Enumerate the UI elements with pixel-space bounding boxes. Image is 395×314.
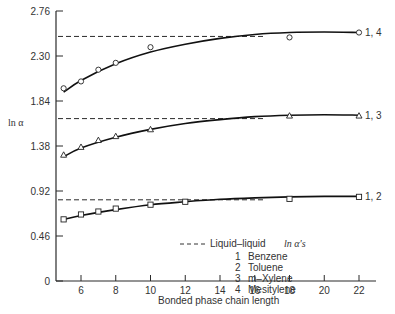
- y-tick-label: 0: [44, 276, 50, 287]
- legend-num-1: 1: [235, 251, 241, 262]
- chart: 00.460.921.381.842.302.76681012141618202…: [0, 0, 395, 314]
- legend-label-toluene: Toluene: [248, 262, 283, 273]
- data-markers: [61, 30, 362, 222]
- y-tick-label: 2.30: [31, 51, 51, 62]
- y-tick-label: 0.92: [31, 186, 51, 197]
- legend: Liquid–liquid ln α's 1 Benzene 2 Toluene…: [180, 238, 306, 295]
- legend-dash-label: Liquid–liquid: [210, 238, 266, 249]
- circle-marker: [78, 79, 83, 84]
- series-labels: 1, 41, 31, 2: [365, 27, 382, 202]
- legend-dash-suffix: ln α's: [284, 238, 306, 249]
- x-tick-label: 10: [145, 285, 157, 296]
- circle-marker: [356, 30, 361, 35]
- triangle-marker: [61, 152, 67, 157]
- axes: 00.460.921.381.842.302.76681012141618202…: [31, 6, 376, 297]
- circle-marker: [113, 60, 118, 65]
- y-tick-label: 2.76: [31, 6, 51, 17]
- triangle-marker: [95, 137, 101, 142]
- square-marker: [183, 199, 188, 204]
- y-axis-label: ln α: [8, 117, 24, 128]
- fit-curve: [64, 32, 359, 92]
- series-label: 1, 2: [365, 191, 382, 202]
- legend-label-mesitylene: Mesitylene: [248, 284, 296, 295]
- legend-label-benzene: Benzene: [248, 251, 288, 262]
- legend-num-2: 2: [235, 262, 241, 273]
- square-marker: [113, 206, 118, 211]
- y-tick-label: 1.38: [31, 141, 51, 152]
- square-marker: [356, 194, 361, 199]
- x-tick-label: 22: [353, 285, 365, 296]
- legend-num-4: 4: [235, 284, 241, 295]
- y-tick-label: 0.46: [31, 231, 51, 242]
- series-label: 1, 4: [365, 27, 382, 38]
- circle-marker: [96, 67, 101, 72]
- legend-label-m-xylene: m–Xylene: [248, 273, 293, 284]
- x-tick-label: 6: [78, 285, 84, 296]
- x-tick-label: 20: [319, 285, 331, 296]
- x-axis-label: Bonded phase chain length: [158, 295, 279, 306]
- fit-curves: [64, 32, 359, 219]
- circle-marker: [148, 45, 153, 50]
- circle-marker: [287, 35, 292, 40]
- square-marker: [148, 202, 153, 207]
- y-tick-label: 1.84: [31, 96, 51, 107]
- x-tick-label: 8: [113, 285, 119, 296]
- square-marker: [287, 196, 292, 201]
- square-marker: [78, 212, 83, 217]
- square-marker: [61, 217, 66, 222]
- square-marker: [96, 209, 101, 214]
- fit-curve: [64, 115, 359, 157]
- legend-num-3: 3: [235, 273, 241, 284]
- series-label: 1, 3: [365, 110, 382, 121]
- circle-marker: [61, 86, 66, 91]
